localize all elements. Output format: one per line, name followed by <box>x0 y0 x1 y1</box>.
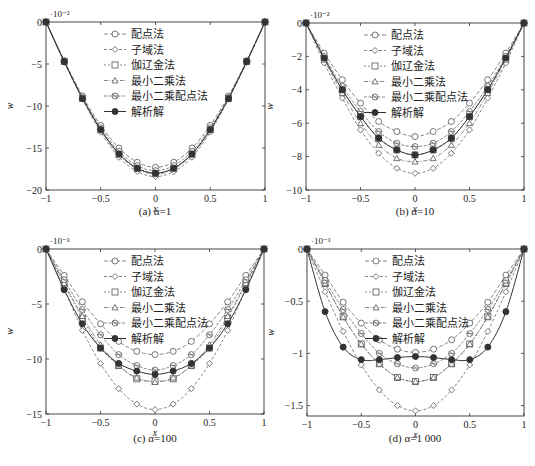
y-tick-label: −10 <box>26 354 42 365</box>
legend: 配点法子域法伽辽金法最小二乘法最小二乘配点法解析解 <box>104 254 208 346</box>
y-tick-label: −10 <box>26 101 42 112</box>
legend: 配点法子域法伽辽金法最小二乘法最小二乘配点法解析解 <box>364 28 468 120</box>
x-tick-label: 0.5 <box>203 417 216 428</box>
legend-label: 子域法 <box>391 44 424 58</box>
y-tick-label: 0 <box>37 244 42 255</box>
x-tick-label: −1 <box>302 419 313 430</box>
caption-a: (a) α=1 <box>55 205 255 217</box>
y-tick-label: −1 <box>292 348 303 359</box>
legend-label: 最小二乘配点法 <box>391 90 468 104</box>
caption-c: (c) α=100 <box>55 432 255 444</box>
y-tick-label: −1.5 <box>285 400 303 411</box>
legend: 配点法子域法伽辽金法最小二乘法最小二乘配点法解析解 <box>104 27 208 119</box>
y-axis-label: w <box>264 103 275 110</box>
panel-c: −1−0.500.510−5−10−15·10⁻³xw配点法子域法伽辽金法最小二… <box>4 236 267 438</box>
x-tick-label: 0.5 <box>204 193 217 204</box>
legend-label: 最小二乘法 <box>391 75 446 89</box>
y-tick-label: −15 <box>26 409 42 420</box>
x-tick-label: −0.5 <box>352 419 370 430</box>
y-axis-label: w <box>4 328 15 335</box>
legend-label: 伽辽金法 <box>131 58 175 72</box>
y-tick-label: −2 <box>291 51 302 62</box>
legend-label: 解析解 <box>131 105 164 119</box>
x-tick-label: −1 <box>41 193 52 204</box>
y-tick-label: 0 <box>298 244 303 255</box>
y-tick-label: −15 <box>26 143 42 154</box>
x-tick-label: −0.5 <box>92 193 110 204</box>
panel-a: −1−0.500.510−5−10−15−20·10⁻²xw配点法子域法伽辽金法… <box>4 9 268 214</box>
y-tick-label: −4 <box>291 84 302 95</box>
y-tick-label: −0.5 <box>285 296 303 307</box>
legend-label: 最小二乘法 <box>131 74 186 88</box>
x-tick-label: 0.5 <box>464 419 477 430</box>
legend-label: 最小二乘配点法 <box>131 316 208 330</box>
x-tick-label: 1 <box>522 193 527 204</box>
legend-label: 最小二乘配点法 <box>392 316 469 330</box>
legend-label: 配点法 <box>391 28 424 42</box>
caption-b: (b) α=10 <box>315 205 515 217</box>
legend: 配点法子域法伽辽金法最小二乘法最小二乘配点法解析解 <box>365 254 469 346</box>
legend-label: 子域法 <box>131 43 164 57</box>
figure-four-panels: −1−0.500.510−5−10−15−20·10⁻²xw配点法子域法伽辽金法… <box>0 0 535 466</box>
x-tick-label: −0.5 <box>351 193 369 204</box>
y-multiplier: ·10⁻² <box>50 9 70 19</box>
x-tick-label: 1 <box>522 419 527 430</box>
y-tick-label: −8 <box>291 151 302 162</box>
legend-label: 配点法 <box>131 27 164 41</box>
legend-label: 子域法 <box>131 270 164 284</box>
y-tick-label: −5 <box>31 59 42 70</box>
y-multiplier: ·10⁻² <box>310 10 330 20</box>
legend-label: 最小二乘法 <box>392 301 447 315</box>
x-tick-label: 1 <box>263 193 268 204</box>
x-tick-label: 0.5 <box>463 193 476 204</box>
y-tick-label: −10 <box>286 185 302 196</box>
y-tick-label: −6 <box>291 118 302 129</box>
legend-label: 最小二乘配点法 <box>131 89 208 103</box>
legend-label: 最小二乘法 <box>131 301 186 315</box>
legend-label: 解析解 <box>131 332 164 346</box>
x-tick-label: −1 <box>301 193 312 204</box>
y-axis-label: w <box>4 102 15 109</box>
y-tick-label: 0 <box>37 17 42 28</box>
panel-b: −1−0.500.510−2−4−6−8−10·10⁻²xw配点法子域法伽辽金法… <box>264 10 527 214</box>
legend-label: 子域法 <box>392 270 425 284</box>
y-multiplier: ·10⁻³ <box>50 236 70 246</box>
legend-label: 配点法 <box>392 254 425 268</box>
legend-label: 伽辽金法 <box>131 285 175 299</box>
y-multiplier: ·10⁻³ <box>311 236 331 246</box>
y-tick-label: 0 <box>297 18 302 29</box>
y-tick-label: −5 <box>31 299 42 310</box>
legend-label: 解析解 <box>392 332 425 346</box>
legend-label: 解析解 <box>391 106 424 120</box>
legend-label: 伽辽金法 <box>391 59 435 73</box>
x-tick-label: −1 <box>41 417 52 428</box>
y-axis-label: w <box>265 329 276 336</box>
y-tick-label: −20 <box>26 185 42 196</box>
caption-d: (d) α=1 000 <box>315 432 515 444</box>
x-tick-label: −0.5 <box>91 417 109 428</box>
legend-label: 配点法 <box>131 254 164 268</box>
x-tick-label: 1 <box>262 417 267 428</box>
panel-d: −1−0.500.510−0.5−1−1.5·10⁻³xw配点法子域法伽辽金法最… <box>265 236 527 440</box>
legend-label: 伽辽金法 <box>392 285 436 299</box>
